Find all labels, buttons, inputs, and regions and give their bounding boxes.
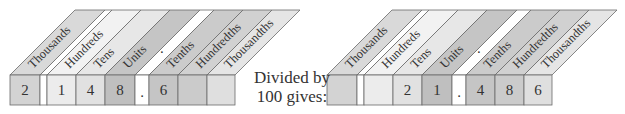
decimal-point: . xyxy=(140,84,144,100)
digit: 4 xyxy=(477,82,485,98)
column-front-face xyxy=(178,75,207,105)
column-label: . xyxy=(160,40,164,56)
digit: 6 xyxy=(160,82,168,98)
digit: 6 xyxy=(534,82,542,98)
digit: 2 xyxy=(404,82,412,98)
column-front-face xyxy=(364,75,393,105)
digit: 2 xyxy=(21,82,29,98)
caption-line-1: Divided by xyxy=(252,68,332,87)
digit: 8 xyxy=(506,82,514,98)
column-front-face xyxy=(40,75,47,105)
digit: 8 xyxy=(116,82,124,98)
digit: 1 xyxy=(58,82,66,98)
after-slab: ThousandsHundredsTens2Units1..Tenths4Hun… xyxy=(327,10,617,105)
column-label: . xyxy=(477,40,481,56)
caption-line-2: 100 gives: xyxy=(252,87,332,106)
digit: 4 xyxy=(87,82,95,98)
column-front-face xyxy=(357,75,364,105)
column-front-face xyxy=(207,75,235,105)
divided-by-100-caption: Divided by 100 gives: xyxy=(252,68,332,106)
digit: 1 xyxy=(433,82,441,98)
decimal-point: . xyxy=(457,84,461,100)
